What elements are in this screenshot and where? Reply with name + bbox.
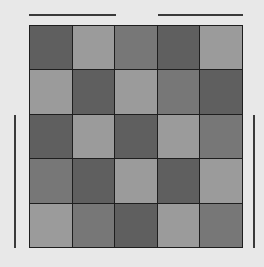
right-clue-bar (253, 115, 255, 248)
grid-cell-r1-c5[interactable] (200, 26, 242, 69)
grid-cell-r2-c5[interactable] (200, 70, 242, 113)
grid-cell-r1-c1[interactable] (30, 26, 72, 69)
grid-cell-r1-c4[interactable] (158, 26, 200, 69)
grid-cell-r4-c1[interactable] (30, 159, 72, 202)
top-left-clue-bar (29, 14, 116, 16)
grid-cell-r3-c3[interactable] (115, 115, 157, 158)
grid-cell-r2-c4[interactable] (158, 70, 200, 113)
grid-cell-r4-c5[interactable] (200, 159, 242, 202)
grid-cell-r5-c4[interactable] (158, 204, 200, 247)
grid-cell-r1-c2[interactable] (73, 26, 115, 69)
grid-cell-r4-c3[interactable] (115, 159, 157, 202)
top-right-clue-bar (158, 14, 243, 16)
grid-cell-r2-c2[interactable] (73, 70, 115, 113)
grid-cell-r4-c4[interactable] (158, 159, 200, 202)
grid-cell-r3-c5[interactable] (200, 115, 242, 158)
grid-cell-r5-c1[interactable] (30, 204, 72, 247)
grid-cell-r1-c3[interactable] (115, 26, 157, 69)
grid-cell-r2-c3[interactable] (115, 70, 157, 113)
grid-cell-r3-c2[interactable] (73, 115, 115, 158)
left-clue-bar (14, 115, 16, 248)
grid-cell-r3-c4[interactable] (158, 115, 200, 158)
grid-cell-r3-c1[interactable] (30, 115, 72, 158)
grid-cell-r5-c3[interactable] (115, 204, 157, 247)
grid-cell-r2-c1[interactable] (30, 70, 72, 113)
puzzle-grid (29, 25, 243, 248)
grid-cell-r5-c5[interactable] (200, 204, 242, 247)
grid-cell-r5-c2[interactable] (73, 204, 115, 247)
grid-cell-r4-c2[interactable] (73, 159, 115, 202)
